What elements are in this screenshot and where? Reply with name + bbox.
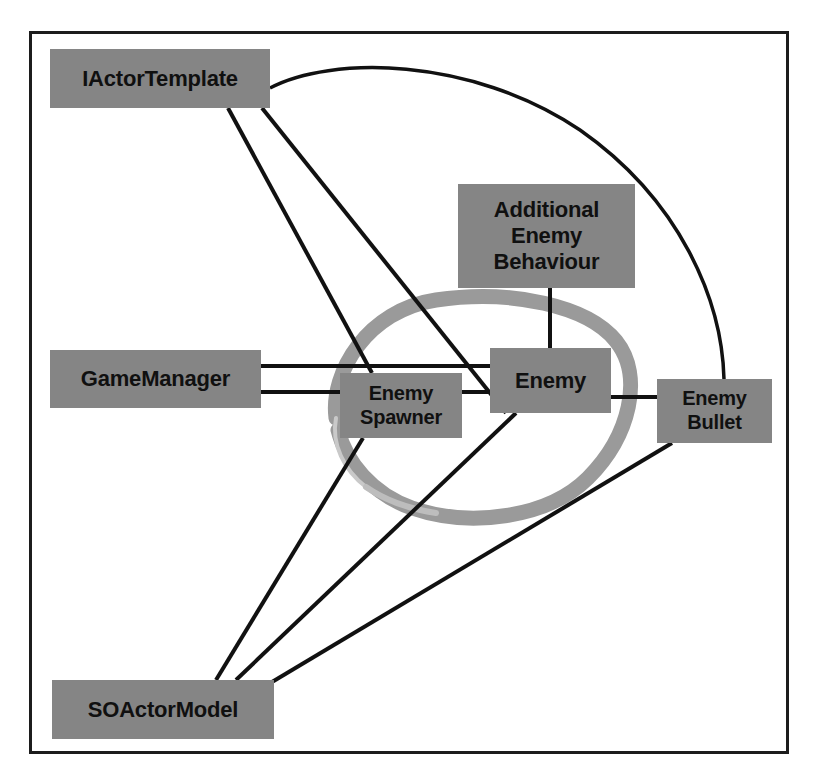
- node-label: GameManager: [75, 366, 236, 392]
- node-gamemanager[interactable]: GameManager: [50, 350, 261, 408]
- node-enemy[interactable]: Enemy: [490, 348, 611, 413]
- node-iactortemplate[interactable]: IActorTemplate: [50, 49, 270, 108]
- node-label: Enemy Spawner: [354, 382, 448, 429]
- node-label: IActorTemplate: [76, 66, 244, 92]
- node-label: Additional Enemy Behaviour: [488, 197, 606, 275]
- node-label: Enemy Bullet: [676, 387, 753, 434]
- edge-enemyspawner-soactormodel: [216, 438, 363, 680]
- node-label: SOActorModel: [82, 697, 244, 723]
- node-enemy-bullet[interactable]: Enemy Bullet: [657, 379, 772, 443]
- node-additional-enemy-behaviour[interactable]: Additional Enemy Behaviour: [458, 184, 635, 288]
- diagram-canvas: IActorTemplate Additional Enemy Behaviou…: [0, 0, 820, 784]
- node-enemy-spawner[interactable]: Enemy Spawner: [340, 373, 462, 438]
- node-soactormodel[interactable]: SOActorModel: [52, 680, 274, 739]
- edge-enemybullet-soactormodel: [272, 443, 672, 682]
- node-label: Enemy: [509, 368, 592, 394]
- edge-iactortemplate-enemyspawner: [228, 108, 372, 373]
- edge-enemy-soactormodel: [236, 413, 516, 680]
